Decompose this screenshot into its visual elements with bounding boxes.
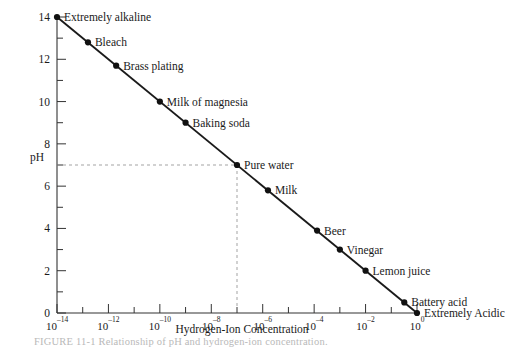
data-point: [54, 14, 60, 20]
pure-water-guide-lines: [57, 165, 237, 313]
y-tick-label: 12: [39, 53, 51, 65]
data-point-label: Extremely Acidic: [424, 307, 505, 320]
data-point-label: Baking soda: [193, 117, 250, 130]
data-point: [182, 120, 188, 126]
x-tick-label: 10–12: [97, 315, 120, 333]
data-point-label: Brass plating: [123, 60, 184, 73]
y-tick-label: 14: [39, 11, 51, 23]
ph-chart: 02468101214 10–1410–1210–1010–810–610–41…: [0, 0, 517, 350]
data-point: [314, 227, 320, 233]
y-tick-label: 0: [44, 307, 50, 319]
data-point-label: Pure water: [244, 159, 294, 171]
x-tick-label: 10–10: [149, 315, 172, 333]
data-point: [362, 268, 368, 274]
data-point: [85, 39, 91, 45]
ph-scale-figure: 02468101214 10–1410–1210–1010–810–610–41…: [0, 0, 517, 350]
data-point: [265, 187, 271, 193]
y-tick-label: 2: [44, 265, 50, 277]
data-point-label: Lemon juice: [373, 265, 431, 278]
data-point: [157, 98, 163, 104]
y-tick-label: 8: [44, 138, 50, 150]
y-tick-label: 4: [44, 222, 50, 234]
data-point: [414, 310, 420, 316]
data-point-label: Beer: [324, 225, 346, 237]
x-axis-title: Hydrogen-Ion Concentration: [175, 323, 308, 336]
figure-caption: FIGURE 11-1 Relationship of pH and hydro…: [34, 336, 504, 347]
data-point-label: Extremely alkaline: [64, 11, 151, 24]
data-point-label: Vinegar: [347, 244, 384, 257]
data-point: [113, 63, 119, 69]
y-axis-title: pH: [30, 151, 44, 164]
y-tick-label: 10: [39, 96, 51, 108]
data-point-label: Milk: [275, 184, 298, 196]
data-point: [234, 162, 240, 168]
data-point-label: Bleach: [95, 36, 127, 48]
y-axis-tick-labels: 02468101214: [39, 11, 51, 319]
x-tick-label: 10–2: [356, 315, 375, 333]
x-tick-label: 100: [410, 315, 425, 333]
data-point-label: Milk of magnesia: [167, 96, 248, 109]
data-point: [401, 299, 407, 305]
data-point-labels: Extremely alkalineBleachBrass platingMil…: [64, 11, 505, 320]
data-point: [337, 246, 343, 252]
y-tick-label: 6: [44, 180, 50, 192]
